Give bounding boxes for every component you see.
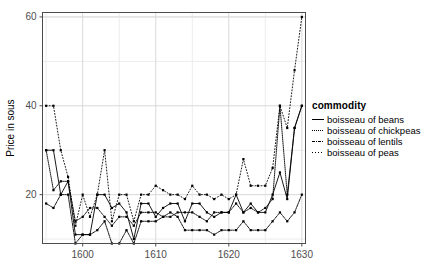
legend-label-lentils: boisseau of lentils: [327, 136, 403, 147]
legend-label-beans: boisseau of beans: [327, 114, 404, 125]
legend-item-peas[interactable]: boisseau of peas: [312, 147, 424, 158]
legend-label-chickpeas: boisseau of chickpeas: [327, 125, 420, 136]
x-tick-label: 1600: [72, 249, 95, 260]
legend-item-beans[interactable]: boisseau of beans: [312, 114, 424, 125]
solid-line-key: [312, 114, 324, 125]
chart-page: 1600161016201630 204060 Price in sous co…: [0, 0, 427, 277]
x-tick-label: 1620: [218, 249, 241, 260]
y-tick-label: 20: [25, 189, 37, 200]
legend-item-lentils[interactable]: boisseau of lentils: [312, 136, 424, 147]
legend-label-peas: boisseau of peas: [327, 147, 399, 158]
y-axis-title: Price in sous: [5, 99, 16, 156]
fine-dotted-line-key: [312, 125, 324, 136]
x-tick-label: 1610: [145, 249, 168, 260]
y-tick-label: 40: [25, 100, 37, 111]
legend: commodity boisseau of beans boisseau of …: [312, 100, 424, 158]
x-tick-label: 1630: [291, 249, 314, 260]
y-tick-label: 60: [25, 11, 37, 22]
legend-item-chickpeas[interactable]: boisseau of chickpeas: [312, 125, 424, 136]
dotted-line-key: [312, 147, 324, 158]
legend-title: commodity: [312, 100, 424, 111]
dash-dot-line-key: [312, 136, 324, 147]
